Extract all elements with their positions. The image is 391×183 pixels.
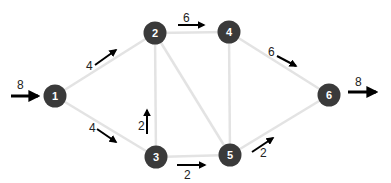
node-3: 3 bbox=[145, 146, 168, 169]
flow-label-3-5: 2 bbox=[184, 168, 191, 182]
node-4: 4 bbox=[218, 21, 241, 44]
edge-4-5 bbox=[229, 32, 230, 155]
edge-5-6 bbox=[230, 95, 329, 155]
node-label-4: 4 bbox=[226, 26, 233, 38]
node-5: 5 bbox=[219, 144, 242, 167]
edges bbox=[55, 32, 329, 157]
node-1: 1 bbox=[44, 85, 67, 108]
flow-label-4-6: 6 bbox=[268, 45, 275, 59]
node-label-3: 3 bbox=[153, 151, 159, 163]
flow-label-1-3: 4 bbox=[89, 121, 96, 135]
node-label-5: 5 bbox=[227, 149, 233, 161]
node-2: 2 bbox=[144, 22, 167, 45]
flow-label-3-2: 2 bbox=[138, 119, 145, 133]
flow-label-5-6: 2 bbox=[260, 146, 267, 160]
node-label-6: 6 bbox=[326, 89, 332, 101]
flow-label-2-4: 6 bbox=[183, 11, 190, 25]
edge-4-6 bbox=[229, 32, 329, 95]
node-6: 6 bbox=[318, 84, 341, 107]
node-label-1: 1 bbox=[52, 90, 58, 102]
node-label-2: 2 bbox=[152, 27, 158, 39]
edge-2-3 bbox=[155, 33, 156, 157]
edge-2-5 bbox=[155, 33, 230, 155]
flow-label-1-2: 4 bbox=[86, 59, 93, 73]
edge-1-2 bbox=[55, 33, 155, 96]
outflow-label: 8 bbox=[355, 75, 362, 89]
flow-network-diagram: 8 4 4 2 6 2 6 2 8 1 2 3 4 bbox=[0, 0, 391, 183]
inflow-label: 8 bbox=[17, 78, 24, 92]
